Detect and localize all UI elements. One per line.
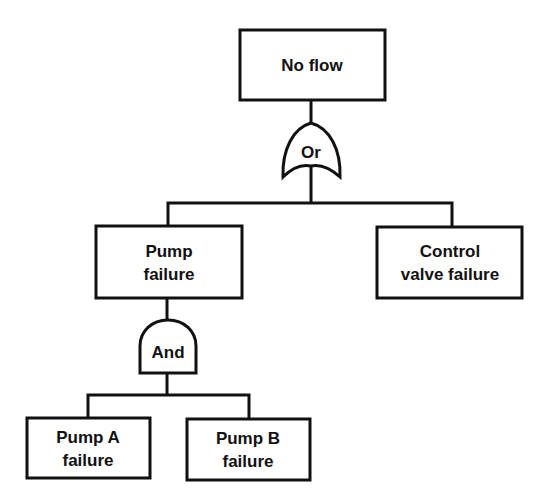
pump-a-line2: failure — [62, 451, 113, 470]
or-gate-label: Or — [301, 143, 321, 162]
branch-bus-bottom — [88, 395, 249, 419]
control-valve-failure-box — [377, 227, 522, 298]
top-event-no-flow: No flow — [240, 30, 385, 100]
and-gate: And — [140, 320, 196, 373]
control-valve-line1: Control — [420, 242, 480, 261]
event-pump-a-failure: Pump A failure — [27, 418, 150, 478]
event-pump-b-failure: Pump B failure — [187, 419, 310, 480]
pump-failure-line1: Pump — [145, 242, 192, 261]
event-control-valve-failure: Control valve failure — [377, 227, 522, 298]
control-valve-line2: valve failure — [401, 265, 499, 284]
pump-failure-box — [96, 226, 242, 298]
pump-b-line1: Pump B — [216, 429, 280, 448]
top-event-label: No flow — [281, 56, 343, 75]
branch-bus-top — [168, 203, 452, 227]
fault-tree-diagram: No flow Or Pump failure Control valve fa… — [0, 0, 544, 503]
and-gate-label: And — [151, 343, 184, 362]
pump-a-line1: Pump A — [56, 428, 120, 447]
event-pump-failure: Pump failure — [96, 226, 242, 298]
pump-b-line2: failure — [222, 452, 273, 471]
pump-failure-line2: failure — [143, 265, 194, 284]
